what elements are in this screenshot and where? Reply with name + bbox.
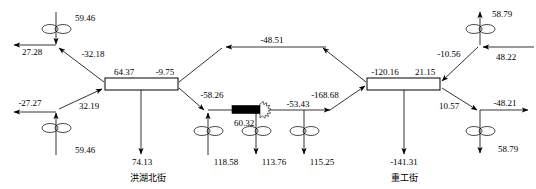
label-flow-det1-down: 118.58: [214, 157, 239, 167]
street-label-left: 洪湖北街: [130, 172, 166, 183]
label-flow-left-down: 74.13: [132, 157, 153, 167]
label-flow-sw-ramp: 32.19: [79, 101, 100, 111]
incident-marker: [232, 101, 271, 118]
detector-mid-3-stem: [290, 110, 319, 154]
label-flow-mid-ramp-down: -58.26: [200, 90, 224, 100]
link-right-box: [367, 78, 440, 90]
label-flow-right-down: -141.31: [390, 157, 418, 167]
label-flow-mid-link: -53.43: [286, 99, 310, 109]
label-link-right-top: -120.16: [371, 67, 399, 77]
label-flow-mid-ramp-up: -168.68: [311, 90, 339, 100]
label-flow-se-ramp: 10.57: [439, 101, 460, 111]
label-link-right-bottom: 21.15: [415, 67, 436, 77]
label-flow-se-detector: 58.79: [498, 144, 519, 154]
label-link-left-bottom: -9.75: [156, 67, 175, 77]
label-flow-sw-exit: -27.27: [18, 98, 42, 108]
ramp-right-up-left: [323, 48, 366, 82]
label-flow-incident: 60.32: [234, 118, 254, 128]
detector-se-stem: [466, 110, 495, 153]
label-flow-ne-ramp: -10.56: [437, 49, 461, 59]
network-canvas: 27.28 59.46 -32.18 -27.27 59.46 32.19 64…: [0, 0, 536, 189]
street-label-right: 重工街: [391, 172, 418, 183]
detector-sw-stem: [42, 113, 71, 155]
label-flow-nw-detector: 59.46: [75, 13, 96, 23]
detector-nw-stem: [42, 12, 71, 44]
label-flow-nw-ramp: -32.18: [81, 49, 105, 59]
detector-ne-stem: [466, 12, 495, 45]
traffic-flow-diagram: 27.28 59.46 -32.18 -27.27 59.46 32.19 64…: [0, 0, 536, 189]
label-flow-det3-down: 115.25: [310, 157, 335, 167]
label-flow-sw-detector: 59.46: [75, 145, 96, 155]
detector-mid-1-stem: [194, 113, 223, 155]
link-left-box: [105, 78, 178, 90]
label-flow-ne-entry: 48.22: [496, 52, 516, 62]
ramp-left-up-right: [179, 48, 222, 82]
label-flow-top-mid: -48.51: [260, 35, 283, 45]
label-flow-nw-exit: 27.28: [22, 47, 43, 57]
label-flow-det2-down: 113.76: [262, 157, 287, 167]
label-link-left-top: 64.37: [114, 67, 135, 77]
label-flow-ne-detector: 58.79: [492, 9, 513, 19]
label-flow-se-exit: -48.21: [493, 98, 516, 108]
detector-mid-2-stem: [242, 110, 271, 154]
